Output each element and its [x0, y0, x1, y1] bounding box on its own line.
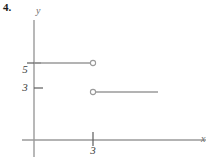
y-axis-label: y	[36, 6, 40, 16]
open-circle-marker-1	[90, 60, 95, 65]
open-circle-marker-2	[90, 89, 95, 94]
step-function-plot	[0, 0, 206, 162]
y-tick-label-3: 3	[19, 82, 31, 93]
x-tick-label-3: 3	[87, 145, 99, 156]
x-axis-label: x	[201, 134, 205, 144]
math-figure-panel: 4. y x 5 3 3	[0, 0, 206, 162]
y-tick-label-5: 5	[19, 64, 31, 75]
